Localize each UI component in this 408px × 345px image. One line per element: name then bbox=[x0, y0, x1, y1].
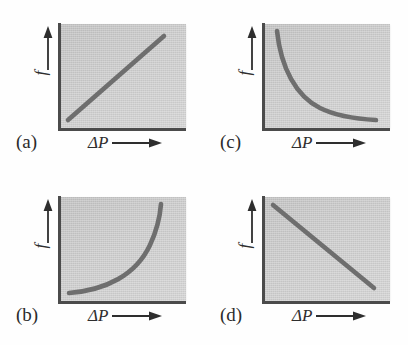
panel-d: f ΔP (d) bbox=[204, 173, 408, 345]
panel-b: f ΔP (b) bbox=[0, 173, 204, 345]
x-axis-line-d bbox=[262, 301, 390, 304]
panel-letter-d: (d) bbox=[220, 304, 242, 326]
curve-a bbox=[60, 24, 186, 128]
y-axis-label-c: f bbox=[234, 62, 256, 84]
x-axis-arrow-icon-d bbox=[316, 310, 366, 322]
x-axis-label-c: ΔP bbox=[292, 133, 312, 153]
panel-letter-b: (b) bbox=[16, 304, 38, 326]
x-axis-arrow-icon-b bbox=[112, 310, 162, 322]
panel-letter-c: (c) bbox=[220, 131, 241, 153]
curve-b bbox=[60, 197, 186, 301]
x-axis-label-d: ΔP bbox=[292, 306, 312, 326]
y-axis-label-d: f bbox=[234, 235, 256, 257]
panel-letter-a: (a) bbox=[16, 131, 37, 153]
x-axis-label-b: ΔP bbox=[88, 306, 108, 326]
panel-c: f ΔP (c) bbox=[204, 0, 408, 172]
x-axis-label-group-d: ΔP bbox=[292, 306, 366, 326]
x-axis-label-group-a: ΔP bbox=[88, 133, 162, 153]
panel-a: f ΔP (a) bbox=[0, 0, 204, 172]
curve-c bbox=[264, 24, 390, 128]
figure-four-panel-f-vs-deltaP: f ΔP (a) f ΔP bbox=[0, 0, 408, 345]
y-axis-label-b: f bbox=[30, 235, 52, 257]
x-axis-arrow-icon-c bbox=[316, 137, 366, 149]
x-axis-label-group-b: ΔP bbox=[88, 306, 162, 326]
x-axis-label-a: ΔP bbox=[88, 133, 108, 153]
y-axis-label-a: f bbox=[30, 62, 52, 84]
x-axis-line-a bbox=[58, 128, 186, 131]
x-axis-line-b bbox=[58, 301, 186, 304]
curve-d bbox=[264, 197, 390, 301]
x-axis-line-c bbox=[262, 128, 390, 131]
x-axis-arrow-icon-a bbox=[112, 137, 162, 149]
x-axis-label-group-c: ΔP bbox=[292, 133, 366, 153]
